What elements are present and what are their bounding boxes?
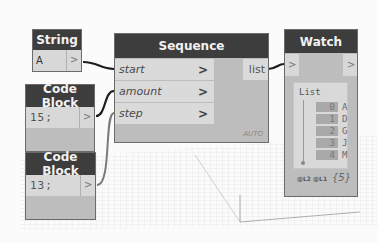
wire-codeblock2-to-step [97,113,114,185]
output-port-chevron-icon[interactable]: > [84,179,92,190]
code-text[interactable]: 13; [26,179,53,192]
port-label: list [249,63,268,76]
watch-input-port[interactable]: > [285,54,299,76]
port-label: amount [115,85,161,98]
wire-codeblock1-to-amount [96,91,114,116]
output-port-chevron-icon[interactable]: > [83,111,91,122]
list-count: {5} [332,172,351,183]
string-value[interactable]: A [33,55,43,66]
chevron-right-icon: > [198,107,208,121]
node-title: Sequence [115,34,268,58]
node-title: Watch [285,30,357,53]
code-block-node-2[interactable]: Code Block 13; > [25,152,96,220]
list-item: 3J [316,138,347,148]
string-input-row[interactable]: A > [33,50,81,71]
node-title: Code Block [26,153,95,175]
watch-output-panel[interactable]: List 0A 1D 2G 3J 4M [293,82,348,169]
output-port-chevron-icon[interactable]: > [70,54,78,65]
node-title: String [33,30,81,50]
wire-string-to-start [83,62,114,69]
output-port-chevron-icon: > [347,59,355,70]
list-item: 2G [316,126,347,136]
string-node[interactable]: String A > [32,29,82,72]
node-title: Code Block [26,85,94,107]
graph-canvas[interactable]: String A > Code Block 15; > Code Block 1… [0,0,378,243]
watch-output-port[interactable]: > [343,54,357,76]
list-item: 0A [316,102,347,112]
watch-node[interactable]: Watch > > List 0A 1D 2G 3J 4M [284,29,358,197]
sequence-node[interactable]: Sequence start > amount > step > list AU… [114,33,269,143]
port-label: step [115,107,143,120]
list-tree-line [303,100,304,162]
output-port-list[interactable]: list [243,59,268,80]
input-port-start[interactable]: start > [115,59,214,80]
list-tree-end-dot [301,161,305,165]
input-port-step[interactable]: step > [115,103,214,124]
code-input-row[interactable]: 13; > [26,175,95,196]
chevron-right-icon: > [198,63,208,77]
code-input-row[interactable]: 15; > [26,107,94,128]
list-header: List [299,87,321,97]
input-port-amount[interactable]: amount > [115,81,214,102]
list-item: 1D [316,114,347,124]
list-item: 4M [316,150,347,160]
code-text[interactable]: 15; [26,111,53,124]
wire-list-to-watch [268,64,284,69]
port-label: start [115,63,145,76]
input-port-chevron-icon: > [288,59,296,70]
lacing-label: AUTO [243,130,263,138]
list-levels: @L2 @L1 [297,175,327,182]
code-block-node-1[interactable]: Code Block 15; > [25,84,95,152]
chevron-right-icon: > [198,85,208,99]
